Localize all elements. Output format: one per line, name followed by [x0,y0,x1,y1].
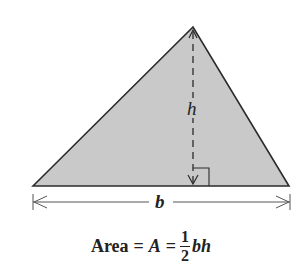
fraction-numerator: 1 [180,229,190,247]
formula-equals-2: = [166,236,176,257]
formula-tail: bh [192,236,211,257]
triangle [33,27,289,186]
formula-equals-1: = [134,236,144,257]
formula-word: Area [91,236,129,257]
formula-variable: A [149,236,161,257]
base-label: b [155,191,165,212]
fraction-denominator: 2 [181,247,189,264]
height-label: h [187,98,197,119]
triangle-diagram: h b [0,0,302,226]
area-formula: Area = A = 1 2 bh [0,226,302,266]
formula-fraction: 1 2 [180,229,190,264]
